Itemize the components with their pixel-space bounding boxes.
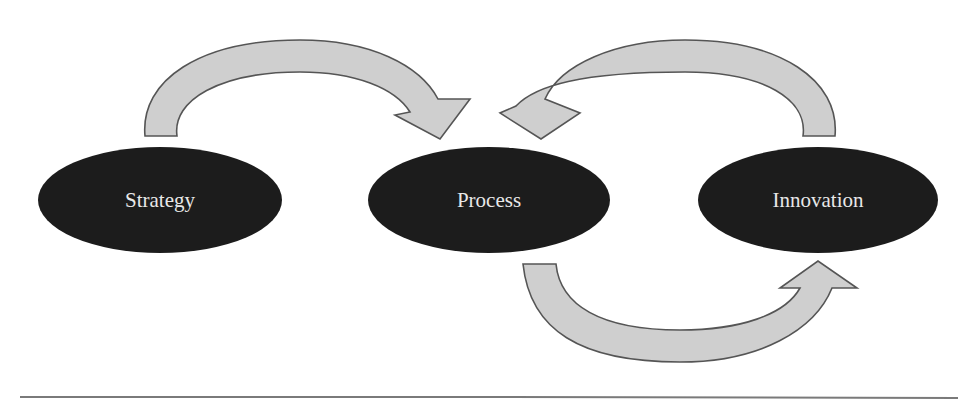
node-strategy-label: Strategy [125, 188, 195, 212]
arrow-innovation-to-process [500, 40, 835, 139]
strategy-process-innovation-diagram: Strategy Process Innovation [0, 0, 978, 409]
arrow-strategy-to-process [145, 40, 470, 139]
node-strategy: Strategy [38, 147, 282, 253]
node-process-label: Process [457, 188, 521, 212]
arrow-process-to-innovation [523, 261, 857, 362]
bottom-divider-right [503, 397, 958, 398]
node-innovation: Innovation [698, 147, 938, 253]
node-innovation-label: Innovation [773, 188, 864, 212]
node-process: Process [368, 147, 610, 253]
